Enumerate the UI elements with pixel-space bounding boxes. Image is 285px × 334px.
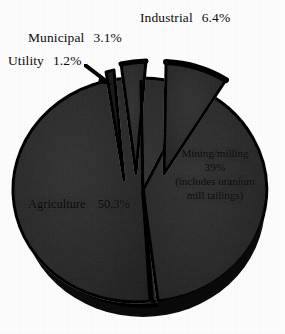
label-agriculture-name: Agriculture [28,197,86,211]
label-industrial-value: 6.4% [202,10,231,25]
utility-leader-line-icon [84,64,114,86]
label-utility-name: Utility [8,53,44,68]
label-mining-value: 39% [152,160,278,174]
pie-chart-figure: Industrial6.4% Municipal3.1% Utility1.2%… [0,0,285,334]
label-municipal-name: Municipal [28,30,84,45]
label-agriculture: Agriculture50.3% [28,197,164,211]
label-utility: Utility1.2% [8,53,81,69]
label-industrial-name: Industrial [140,10,193,25]
label-municipal: Municipal3.1% [28,30,122,46]
label-mining-note-line2: mill tailings) [152,188,278,202]
label-mining-name: Mining/milling [152,146,278,160]
label-industrial: Industrial6.4% [140,10,230,26]
label-agriculture-value: 50.3% [98,197,130,211]
label-utility-value: 1.2% [53,53,82,68]
label-municipal-value: 3.1% [93,30,122,45]
label-mining-milling: Mining/milling 39% (includes uranium mil… [152,146,278,202]
label-mining-note-line1: (includes uranium [152,174,278,188]
